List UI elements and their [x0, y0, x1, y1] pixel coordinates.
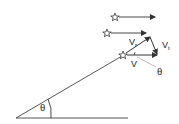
- label-vr: Vr: [129, 38, 137, 48]
- star-icon: [111, 13, 119, 21]
- label-v: V: [131, 60, 137, 69]
- diagram-svg: [0, 0, 179, 124]
- label-vt: Vt: [162, 41, 170, 51]
- star-icon: [103, 29, 111, 37]
- velocity-vt-arrow: [150, 37, 157, 54]
- angle-label-triangle: θ: [157, 66, 162, 77]
- label-vt-sub: t: [168, 45, 170, 51]
- line-of-sight: [16, 56, 122, 118]
- theta-leader-line: [137, 57, 156, 67]
- star-top: [111, 13, 155, 21]
- diagram-canvas: θ Vr Vt V θ: [0, 0, 179, 124]
- star-middle: [103, 29, 146, 37]
- angle-arc: [48, 99, 51, 118]
- angle-label-main: θ: [40, 102, 45, 113]
- label-vr-sub: r: [135, 42, 137, 48]
- star-line-of-sight: [119, 37, 157, 67]
